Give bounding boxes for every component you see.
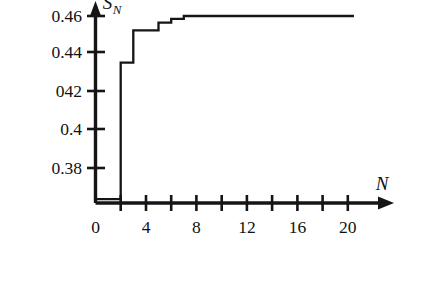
- y-axis-title-subscript: N: [112, 2, 123, 17]
- x-axis-title: N: [375, 173, 390, 194]
- data-step-curve: [96, 16, 355, 199]
- y-axis-title-main: S: [103, 0, 113, 13]
- step-plot-svg: 0.46 0.44 042 0.4 0.38 0 4 8 12 16 20: [0, 0, 429, 285]
- x-tick-label-20: 20: [339, 217, 357, 237]
- x-tick-label-12: 12: [238, 217, 256, 237]
- y-tick-label-0.42: 042: [56, 81, 82, 101]
- axis-group: [90, 1, 394, 209]
- chart-figure: 0.46 0.44 042 0.4 0.38 0 4 8 12 16 20: [0, 0, 429, 285]
- x-tick-label-16: 16: [289, 217, 307, 237]
- x-tick-label-4: 4: [142, 217, 151, 237]
- y-tick-label-0.44: 0.44: [51, 42, 82, 62]
- y-tick-label-0.38: 0.38: [51, 158, 82, 178]
- y-axis-arrowhead: [90, 1, 100, 15]
- y-tick-label-0.4: 0.4: [60, 119, 82, 139]
- y-tick-label-0.46: 0.46: [51, 6, 82, 26]
- x-tick-label-8: 8: [192, 217, 201, 237]
- y-axis-title: SN: [103, 0, 123, 17]
- x-axis-arrowhead: [378, 197, 394, 210]
- x-tick-label-0: 0: [91, 217, 100, 237]
- y-tick-label-group: 0.46 0.44 042 0.4 0.38: [51, 6, 82, 178]
- x-tick-label-group: 0 4 8 12 16 20: [91, 217, 357, 237]
